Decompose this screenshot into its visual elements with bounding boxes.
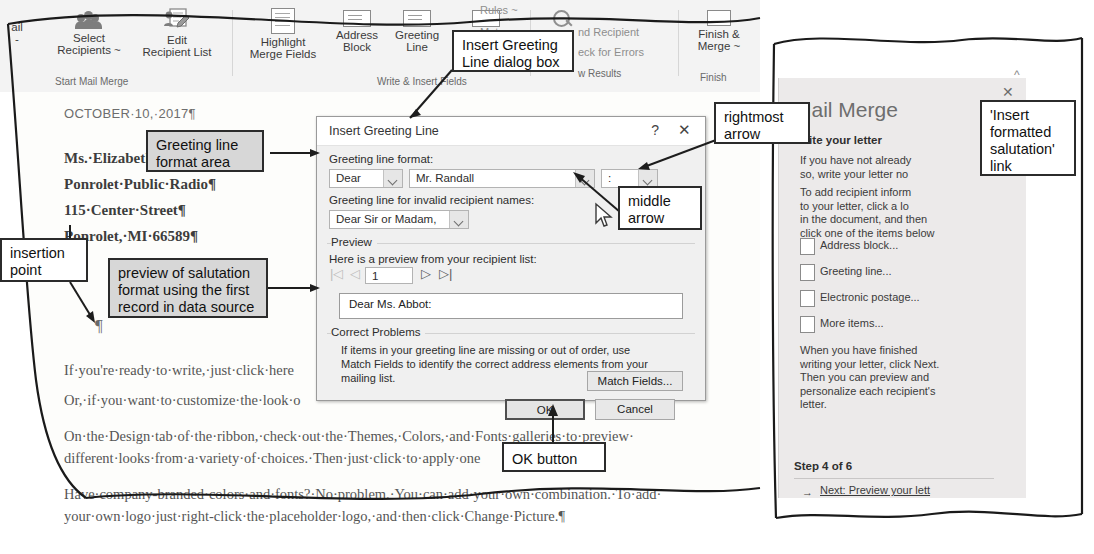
- ribbon-button-select-recipients-line1: Select: [73, 32, 105, 44]
- ribbon-button-finish-line1: Finish &: [698, 28, 740, 40]
- callout-ok-button: OK button: [502, 442, 606, 472]
- task-pane-close-icon[interactable]: ✕: [1002, 84, 1014, 100]
- document-date: OCTOBER·10,·2017¶: [64, 106, 196, 121]
- callout-preview-of-salutation: preview of salutation format using the f…: [108, 258, 268, 318]
- callout-greeting-line-format-area: Greeting line format area: [146, 130, 264, 172]
- ribbon-button-greeting-line-line1: Greeting: [395, 29, 439, 41]
- chevron-down-icon-invalid[interactable]: [449, 211, 468, 228]
- mailings-ribbon: ail - Select Recipients ~: [0, 0, 760, 92]
- edit-recipients-icon: [163, 8, 191, 32]
- task-pane-link-more-items[interactable]: More items...: [820, 317, 884, 329]
- invalid-recipient-value: Dear Sir or Madam,: [336, 213, 436, 225]
- task-pane-divider: [794, 478, 994, 479]
- ribbon-group-title-write-insert: Write & Insert Fields: [377, 76, 467, 87]
- more-items-icon: [800, 316, 815, 333]
- ribbon-group-separator-3: [678, 10, 679, 76]
- close-icon[interactable]: ✕: [678, 121, 691, 139]
- correct-problems-group-label: Correct Problems: [331, 326, 425, 338]
- ribbon-button-edit-recipient-list[interactable]: Edit Recipient List: [130, 8, 224, 58]
- dialog-title-bar: Insert Greeting Line ? ✕: [317, 117, 705, 146]
- address-block-icon: [800, 238, 815, 255]
- dialog-title: Insert Greeting Line: [329, 124, 439, 138]
- record-number-value: 1: [372, 270, 378, 282]
- ribbon-button-highlight-merge-fields[interactable]: Highlight Merge Fields: [240, 8, 326, 60]
- document-body-line-6: your·own·logo·just·right-click·the·place…: [64, 508, 565, 525]
- invalid-recipient-label: Greeting line for invalid recipient name…: [329, 194, 534, 206]
- ribbon-button-select-recipients-line2: Recipients ~: [57, 44, 121, 56]
- insertion-point-caret: ¶: [95, 316, 103, 336]
- ribbon-button-mail-line1: ail: [11, 21, 23, 33]
- ribbon-group-separator-1: [232, 10, 233, 76]
- greeting-line-icon: [800, 264, 815, 281]
- salutation-preview-box: Dear Ms. Abbot:: [339, 293, 683, 319]
- document-icon: [271, 8, 295, 34]
- document-body-line-4: different·looks·from·a·variety·of·choice…: [64, 450, 480, 467]
- salutation-preview-text: Dear Ms. Abbot:: [349, 298, 431, 310]
- name-format-value: Mr. Randall: [416, 172, 474, 184]
- ribbon-button-address-block-line1: Address: [336, 29, 378, 41]
- task-pane-link-electronic-postage[interactable]: Electronic postage...: [820, 291, 920, 303]
- finish-merge-icon: [707, 10, 731, 26]
- ribbon-button-mail-line2: -: [15, 33, 19, 45]
- document-body-line-5: Have·company-branded·colors·and·fonts?·N…: [64, 486, 661, 503]
- ribbon-group-title-start-mail-merge: Start Mail Merge: [55, 76, 128, 87]
- punctuation-value: :: [608, 172, 611, 184]
- ribbon-command-check-for-errors[interactable]: eck for Errors: [578, 46, 644, 58]
- document-address-line-2: Ponrolet·Public·Radio¶: [64, 176, 216, 193]
- name-format-dropdown[interactable]: Mr. Randall: [409, 169, 595, 188]
- ribbon-button-mail[interactable]: ail -: [0, 22, 36, 45]
- address-block-icon: [343, 10, 371, 27]
- preview-group-label: Preview: [331, 236, 377, 248]
- nav-prev-record-button[interactable]: ◁: [350, 266, 360, 281]
- ribbon-command-rules[interactable]: Rules ~: [480, 4, 518, 16]
- ribbon-button-greeting-line[interactable]: Greeting Line: [388, 10, 446, 53]
- screenshot-root: ail - Select Recipients ~: [0, 0, 1094, 554]
- magnifier-icon: [549, 8, 575, 30]
- ribbon-command-find-recipient[interactable]: nd Recipient: [578, 26, 639, 38]
- document-body-line-2: Or,·if·you·want·to·customize·the·look·o: [64, 392, 301, 409]
- preview-group-divider: [327, 243, 695, 244]
- preview-instruction-label: Here is a preview from your recipient li…: [329, 253, 537, 265]
- document-address-line-3: 115·Center·Street¶: [64, 202, 186, 219]
- ribbon-button-edit-recipient-list-line1: Edit: [167, 34, 187, 46]
- salutation-value: Dear: [336, 172, 361, 184]
- document-body-line-1: If·you're·ready·to·write,·just·click·her…: [64, 362, 294, 379]
- ribbon-group-title-finish: Finish: [700, 72, 727, 83]
- callout-insertion-point: insertion point: [0, 238, 88, 282]
- callout-insert-formatted-salutation-link: 'Insert formatted salutation' link: [980, 100, 1076, 176]
- ribbon-button-finish-and-merge[interactable]: Finish & Merge ~: [684, 10, 754, 52]
- chevron-down-icon-name-format[interactable]: [575, 170, 594, 187]
- ribbon-group-title-preview-results: w Results: [578, 68, 621, 79]
- task-pane-link-address-block[interactable]: Address block...: [820, 239, 898, 251]
- callout-insert-greeting-line-dialog-box: Insert Greeting Line dialog box: [452, 30, 574, 72]
- record-number-input[interactable]: 1: [365, 267, 413, 284]
- ribbon-button-select-recipients[interactable]: Select Recipients ~: [50, 8, 128, 56]
- insert-greeting-line-dialog: Insert Greeting Line ? ✕ Greeting line f…: [316, 116, 706, 401]
- chevron-down-icon-punctuation[interactable]: [638, 170, 657, 187]
- callout-middle-arrow: middle arrow: [618, 186, 702, 230]
- invalid-recipient-dropdown[interactable]: Dear Sir or Madam,: [329, 210, 469, 229]
- arrow-right-icon: →: [802, 486, 813, 498]
- nav-first-record-button[interactable]: |◁: [330, 266, 343, 281]
- ok-button[interactable]: OK: [505, 399, 585, 420]
- electronic-postage-icon: [800, 290, 815, 307]
- ribbon-button-finish-line2: Merge ~: [698, 40, 741, 52]
- task-pane-link-greeting-line[interactable]: Greeting line...: [820, 265, 892, 277]
- cancel-button[interactable]: Cancel: [595, 399, 675, 420]
- task-pane-next-link[interactable]: Next: Preview your lett: [820, 484, 930, 496]
- salutation-dropdown[interactable]: Dear: [329, 169, 403, 188]
- help-icon[interactable]: ?: [651, 122, 659, 138]
- nav-next-record-button[interactable]: ▷: [421, 266, 431, 281]
- task-pane-step-indicator: Step 4 of 6: [794, 460, 852, 472]
- ribbon-button-address-block-line2: Block: [343, 41, 371, 53]
- match-fields-button[interactable]: Match Fields...: [587, 371, 683, 391]
- nav-last-record-button[interactable]: ▷|: [439, 266, 452, 281]
- task-pane-paragraph-1: If you have not already so, write your l…: [800, 154, 960, 181]
- ribbon-button-highlight-line2: Merge Fields: [250, 48, 316, 60]
- ribbon-button-greeting-line-line2: Line: [406, 41, 428, 53]
- callout-rightmost-arrow: rightmost arrow: [714, 102, 810, 144]
- ribbon-button-address-block[interactable]: Address Block: [328, 10, 386, 53]
- ribbon-button-edit-recipient-list-line2: Recipient List: [142, 46, 211, 58]
- ribbon-button-highlight-line1: Highlight: [261, 36, 306, 48]
- chevron-down-icon-salutation[interactable]: [383, 170, 402, 187]
